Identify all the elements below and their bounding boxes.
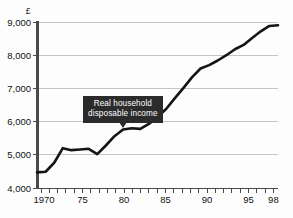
annotation-line-1: Real household [88, 99, 158, 110]
y-tick-label-7000: 7,000 [7, 83, 31, 94]
y-tick-label-8000: 8,000 [7, 50, 31, 61]
x-tick-label-1975: 75 [77, 194, 88, 205]
annotation-pointer-arrow [119, 122, 127, 128]
x-tick-label-1980: 80 [119, 194, 130, 205]
annotation-line-2: disposable income [88, 109, 158, 120]
y-tick-label-4000: 4,000 [7, 183, 31, 194]
y-tick-labels: 9,000 8,000 7,000 6,000 5,000 4,000 [7, 17, 31, 194]
y-tick-label-5000: 5,000 [7, 149, 31, 160]
x-tick-labels: 1970 75 80 85 90 95 98 [33, 194, 278, 205]
y-tick-label-6000: 6,000 [7, 116, 31, 127]
currency-symbol: £ [26, 6, 31, 16]
y-tick-label-9000: 9,000 [7, 17, 31, 28]
x-tick-marks [41, 189, 273, 193]
x-tick-label-1995: 95 [243, 194, 254, 205]
x-tick-label-1998: 98 [268, 194, 279, 205]
annotation-callout: Real household disposable income [83, 96, 163, 123]
x-tick-label-1990: 90 [202, 194, 213, 205]
chart-container: £ 9,000 8,000 7,000 6,000 5,000 4,000 19… [0, 0, 293, 218]
x-tick-label-1970: 1970 [33, 194, 54, 205]
x-tick-label-1985: 85 [160, 194, 171, 205]
